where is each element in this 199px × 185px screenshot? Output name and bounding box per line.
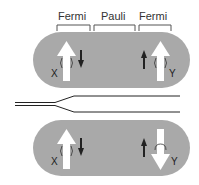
x-label: X bbox=[51, 68, 58, 79]
bracket-fermi-left bbox=[57, 25, 90, 31]
label-pauli: Pauli bbox=[101, 10, 125, 22]
brackets bbox=[57, 25, 171, 31]
x-label: X bbox=[51, 156, 58, 167]
bracket-fermi-right bbox=[139, 25, 171, 31]
bottom-pill: X Y bbox=[33, 120, 190, 176]
y-label: Y bbox=[171, 156, 178, 167]
diagram: Fermi Pauli Fermi X bbox=[0, 0, 199, 185]
bracket-pauli bbox=[94, 25, 135, 31]
tunnel-lines bbox=[15, 96, 180, 112]
label-fermi-left: Fermi bbox=[58, 10, 86, 22]
y-label: Y bbox=[169, 68, 176, 79]
top-pill: X Y bbox=[33, 32, 190, 88]
label-fermi-right: Fermi bbox=[139, 10, 167, 22]
